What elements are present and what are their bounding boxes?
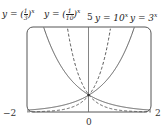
- series-three-curve: [27, 27, 134, 110]
- y-tick-5: 5: [87, 12, 93, 22]
- legend-one-tenth: y = (110)x: [44, 6, 80, 21]
- legend-one-third: y = (13)x: [2, 6, 35, 21]
- x-tick-0: 0: [86, 117, 92, 127]
- legend-three: y = 3x: [130, 10, 157, 23]
- plot-frame: [27, 27, 151, 112]
- x-tick-neg2: −2: [3, 108, 16, 118]
- x-tick-2: 2: [155, 108, 161, 118]
- series-one-third-curve: [44, 27, 151, 110]
- legend-ten: y = 10x: [95, 10, 128, 23]
- intersection-point: [87, 94, 90, 97]
